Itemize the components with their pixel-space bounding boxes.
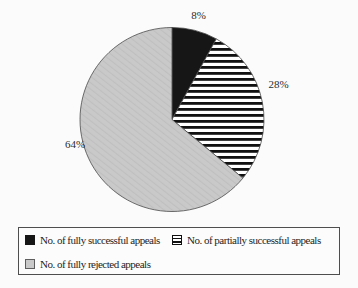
legend-label-fully-rejected: No. of fully rejected appeals: [40, 258, 150, 270]
pie-slice-value-label-0: 8%: [191, 9, 206, 21]
pie-chart: 8%28%64%: [0, 0, 358, 226]
legend-item-fully-rejected: No. of fully rejected appeals: [25, 258, 150, 270]
pie-chart-figure: 8%28%64% No. of fully successful appeals…: [0, 0, 358, 288]
pie-slices-group: [80, 28, 264, 212]
pie-slice-value-label-1: 28%: [268, 78, 288, 90]
chart-legend: No. of fully successful appeals No. of p…: [18, 227, 340, 275]
legend-swatch-gray-icon: [25, 259, 35, 269]
legend-label-partially-successful: No. of partially successful appeals: [187, 234, 321, 246]
legend-swatch-stripes-icon: [172, 235, 182, 245]
pie-slice-value-label-2: 64%: [65, 138, 85, 150]
legend-label-fully-successful: No. of fully successful appeals: [40, 234, 160, 246]
legend-swatch-solid-black-icon: [25, 235, 35, 245]
legend-item-fully-successful: No. of fully successful appeals: [25, 234, 160, 246]
legend-item-partially-successful: No. of partially successful appeals: [172, 234, 321, 246]
